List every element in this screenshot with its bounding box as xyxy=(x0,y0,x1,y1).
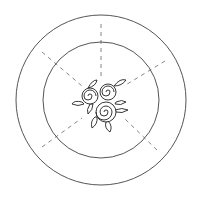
leaf-icon xyxy=(114,80,126,86)
leaf-icon xyxy=(115,101,126,105)
leaf-icon xyxy=(115,109,128,113)
leaf-icon xyxy=(88,80,97,88)
rose-icon xyxy=(82,88,98,104)
rose-icon xyxy=(100,84,116,100)
leaf-icon xyxy=(72,101,84,105)
leaf-icon xyxy=(91,117,97,128)
ring-diagram xyxy=(0,0,201,205)
leaf-icon xyxy=(106,121,112,132)
leaf-icon xyxy=(87,104,93,114)
dashed-line-upper-right xyxy=(124,61,165,86)
dashed-line-lower-right xyxy=(124,118,157,150)
rose-icon xyxy=(96,102,116,122)
rose-cluster-icon xyxy=(72,80,128,132)
